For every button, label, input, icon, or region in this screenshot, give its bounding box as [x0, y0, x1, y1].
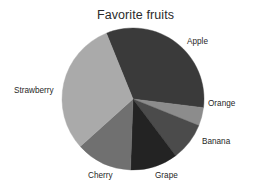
pie-slices-group	[0, 0, 259, 194]
slice-label-orange: Orange	[208, 100, 235, 108]
slice-label-banana: Banana	[202, 138, 230, 146]
pie-chart-figure: Favorite fruits AppleOrangeBananaGrapeCh…	[0, 0, 259, 194]
slice-label-grape: Grape	[155, 172, 178, 180]
slice-label-apple: Apple	[187, 38, 208, 46]
slice-label-cherry: Cherry	[88, 172, 113, 180]
slice-label-strawberry: Strawberry	[14, 87, 54, 95]
